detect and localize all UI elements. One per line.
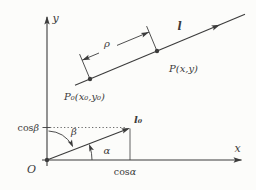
point-p-label: P(x,y) <box>168 63 198 74</box>
cos-beta-prefix: cos <box>18 122 34 133</box>
line-l-label: l <box>177 20 181 33</box>
cos-alpha-label: cosα <box>114 166 137 177</box>
beta-angle-label: β <box>70 126 77 137</box>
x-axis-label: x <box>235 142 242 155</box>
cos-beta-arg: β <box>33 122 40 133</box>
alpha-angle-label: α <box>104 145 111 156</box>
origin-label: O <box>27 163 36 176</box>
point-p0-dot <box>88 77 92 81</box>
y-axis-label: y <box>52 12 60 25</box>
cos-alpha-arg: α <box>130 166 137 177</box>
figure-background <box>0 0 256 190</box>
rho-label: ρ <box>103 38 110 49</box>
geometry-diagram: y x O l P(x,y) P₀(x₀,y₀) ρ l₀ β α cosβ c… <box>0 0 256 190</box>
vector-l0-label: l₀ <box>134 114 143 125</box>
point-p-dot <box>155 49 159 53</box>
cos-alpha-prefix: cos <box>114 166 130 177</box>
cos-beta-label: cosβ <box>18 122 40 133</box>
point-p0-label: P₀(x₀,y₀) <box>63 91 105 102</box>
